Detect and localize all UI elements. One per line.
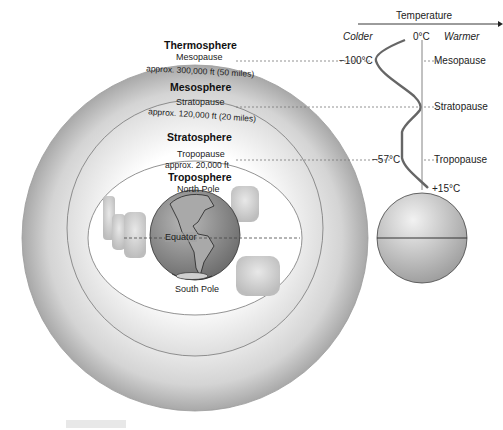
thermosphere-label: Thermosphere xyxy=(164,39,237,51)
troposphere-label: Troposphere xyxy=(168,171,232,183)
mesopause-profile-label: Mesopause xyxy=(434,55,486,66)
mesopause-label: Mesopause xyxy=(176,52,223,62)
tropopause-label: Tropopause xyxy=(177,149,225,159)
north-pole-label: North Pole xyxy=(177,184,220,194)
stratosphere-label: Stratosphere xyxy=(167,131,232,143)
caption-fragment xyxy=(66,420,126,428)
tropopause-temp: −57°C xyxy=(372,154,400,165)
mesopause-temp: −100°C xyxy=(339,55,373,66)
thermometer-bulb xyxy=(377,193,467,283)
tropopause-altitude: approx. 20,000 ft xyxy=(165,160,229,170)
atmosphere-diagram xyxy=(0,0,503,430)
mesosphere-label: Mesosphere xyxy=(170,81,231,93)
stratopause-label: Stratopause xyxy=(176,97,225,107)
equator-label: Equator xyxy=(165,232,197,242)
surface-temp: +15°C xyxy=(432,183,460,194)
zero-degree-label: 0°C xyxy=(413,31,430,42)
colder-label: Colder xyxy=(343,31,372,42)
tropopause-profile-label: Tropopause xyxy=(434,154,487,165)
stratopause-profile-label: Stratopause xyxy=(434,101,488,112)
arrow-right-icon xyxy=(498,21,503,27)
warmer-label: Warmer xyxy=(444,31,479,42)
temperature-axis-title: Temperature xyxy=(396,10,452,21)
temperature-curve xyxy=(376,40,428,188)
south-pole-label: South Pole xyxy=(175,284,219,294)
